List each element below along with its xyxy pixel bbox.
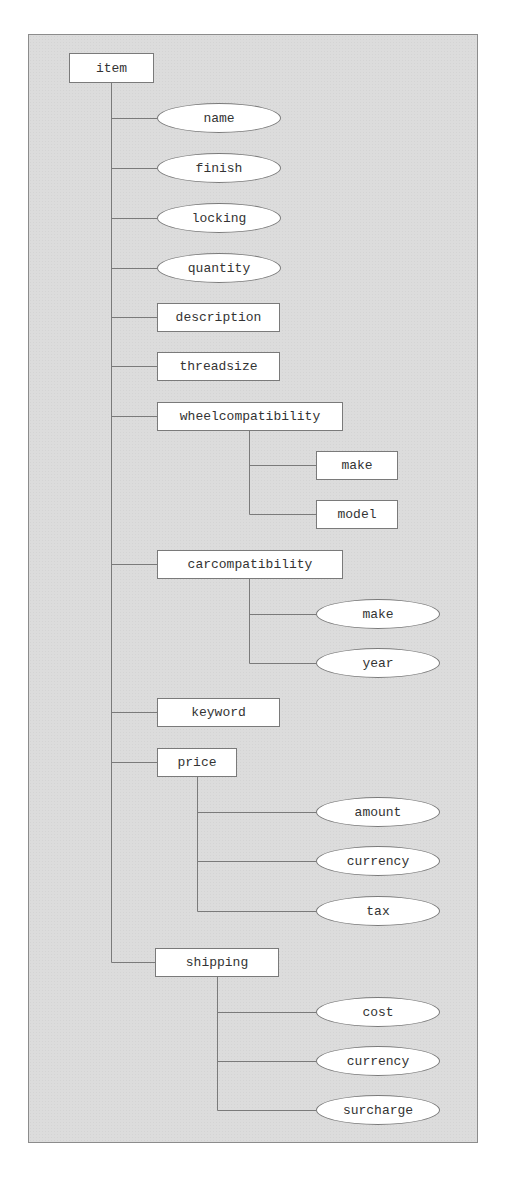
node-description: description <box>157 303 280 332</box>
node-wheel-model: model <box>316 500 398 529</box>
node-wheel-make: make <box>316 451 398 480</box>
node-shipping-surcharge: surcharge <box>316 1095 440 1125</box>
node-price: price <box>157 748 237 777</box>
node-shipping-currency: currency <box>316 1046 440 1076</box>
node-wheelcompatibility: wheelcompatibility <box>157 402 343 431</box>
node-name: name <box>157 103 281 133</box>
node-carcompatibility: carcompatibility <box>157 550 343 579</box>
node-threadsize: threadsize <box>157 352 280 381</box>
node-car-make: make <box>316 599 440 629</box>
node-shipping: shipping <box>155 948 279 977</box>
node-price-amount: amount <box>316 797 440 827</box>
node-item: item <box>69 53 154 83</box>
node-price-currency: currency <box>316 846 440 876</box>
node-finish: finish <box>157 153 281 183</box>
node-keyword: keyword <box>157 698 280 727</box>
node-locking: locking <box>157 203 281 233</box>
node-car-year: year <box>316 648 440 678</box>
node-shipping-cost: cost <box>316 997 440 1027</box>
node-price-tax: tax <box>316 896 440 926</box>
node-quantity: quantity <box>157 253 281 283</box>
